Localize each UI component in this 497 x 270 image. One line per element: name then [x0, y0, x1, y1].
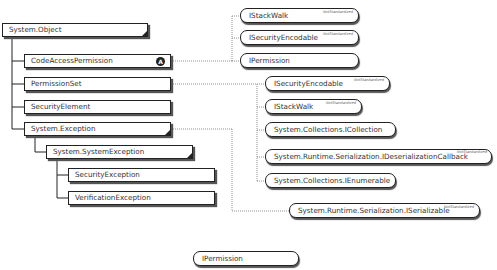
corner-marker-icon [165, 130, 170, 135]
interface-istackwalk[interactable]: IStackWalk NotStandardized [240, 8, 359, 23]
interface-label: System.Collections.ICollection [274, 125, 382, 134]
class-label: SecurityElement [31, 102, 90, 111]
corner-marker-icon [187, 153, 192, 158]
class-system-object[interactable]: System.Object [2, 23, 148, 37]
interface-label: ISecurityEncodable [274, 79, 343, 88]
not-standardized-tag: NotStandardized [444, 204, 474, 210]
class-security-exception[interactable]: SecurityException [68, 168, 215, 182]
interface-label: IPermission [249, 56, 290, 65]
class-permission-set[interactable]: PermissionSet [24, 77, 171, 91]
interface-ienumerable[interactable]: System.Collections.IEnumerable [265, 173, 396, 188]
interface-icollection[interactable]: System.Collections.ICollection [265, 122, 396, 137]
not-standardized-tag: NotStandardized [323, 31, 353, 37]
class-label: System.Object [9, 25, 62, 34]
interface-isecurityencodable[interactable]: ISecurityEncodable NotStandardized [240, 30, 359, 45]
not-standardized-tag: NotStandardized [326, 100, 356, 106]
interface-label: ISecurityEncodable [249, 33, 318, 42]
class-label: SecurityException [75, 170, 140, 179]
interface-iserializable[interactable]: System.Runtime.Serialization.ISerializab… [289, 203, 480, 218]
class-code-access-permission[interactable]: CodeAccessPermission A [24, 54, 171, 68]
not-standardized-tag: NotStandardized [354, 77, 384, 83]
interface-label: IStackWalk [274, 102, 313, 111]
class-label: PermissionSet [31, 79, 82, 88]
interface-istackwalk[interactable]: IStackWalk NotStandardized [265, 99, 362, 114]
corner-marker-icon [142, 31, 147, 36]
interface-isecurityencodable[interactable]: ISecurityEncodable NotStandardized [265, 76, 390, 91]
not-standardized-tag: NotStandardized [457, 149, 487, 155]
interface-label: IPermission [202, 254, 243, 263]
class-label: CodeAccessPermission [31, 56, 113, 65]
interface-ideserializationcallback[interactable]: System.Runtime.Serialization.IDeserializ… [265, 149, 492, 164]
not-standardized-tag: NotStandardized [323, 9, 353, 15]
class-security-element[interactable]: SecurityElement [24, 100, 171, 114]
class-label: System.Exception [31, 124, 95, 133]
interface-label: System.Collections.IEnumerable [274, 176, 390, 185]
interface-label: System.Runtime.Serialization.IDeserializ… [274, 152, 468, 161]
interface-ipermission-standalone[interactable]: IPermission [193, 251, 299, 266]
class-verification-exception[interactable]: VerificationException [68, 191, 215, 205]
class-system-system-exception[interactable]: System.SystemException [46, 145, 193, 159]
class-label: VerificationException [75, 193, 151, 202]
class-label: System.SystemException [53, 147, 144, 156]
interface-ipermission[interactable]: IPermission [240, 53, 359, 68]
class-system-exception[interactable]: System.Exception [24, 122, 171, 136]
abstract-badge-icon: A [156, 57, 165, 66]
interface-label: IStackWalk [249, 11, 288, 20]
interface-label: System.Runtime.Serialization.ISerializab… [298, 206, 450, 215]
